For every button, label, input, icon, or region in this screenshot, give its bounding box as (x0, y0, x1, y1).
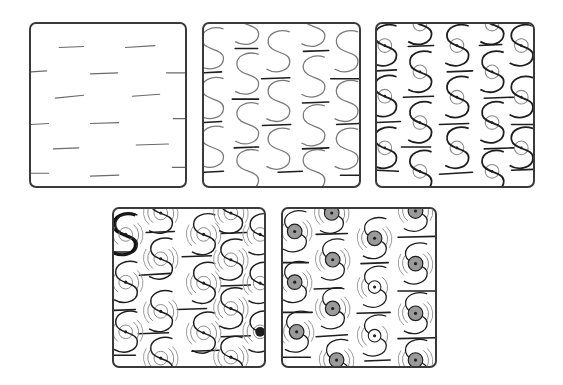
step-3-panel: Step 3 (375, 22, 535, 188)
step-5-panel: Step 5 (281, 207, 437, 368)
step-5-shaded-drawing (283, 209, 435, 366)
step-2-panel: Step 2 (202, 22, 361, 188)
step-3-circles-drawing (377, 24, 533, 186)
step-4-arcs-drawing (114, 209, 264, 366)
step-2-s-curves-drawing (204, 24, 359, 186)
step-1-panel: Step 1 (29, 22, 187, 188)
step-1-dashes-drawing (31, 24, 185, 186)
step-4-panel: Step 4 (112, 207, 266, 368)
